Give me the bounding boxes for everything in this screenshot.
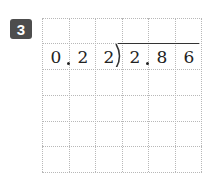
division-bar — [118, 43, 199, 44]
dividend-digit: 6 — [176, 45, 202, 69]
grid-line — [42, 69, 202, 70]
dividend-digit: 8 — [149, 45, 175, 69]
grid-line — [42, 172, 202, 173]
problem-number-badge: 3 — [10, 19, 32, 39]
divisor-digit: 0 — [43, 45, 69, 69]
divisor-digit: 2 — [70, 45, 96, 69]
dividend-digit: 2 — [122, 45, 148, 69]
grid-line — [42, 95, 202, 96]
grid-line — [42, 146, 202, 147]
grid-line — [42, 121, 202, 122]
grid-line — [42, 18, 202, 19]
division-bracket-icon — [114, 43, 122, 67]
